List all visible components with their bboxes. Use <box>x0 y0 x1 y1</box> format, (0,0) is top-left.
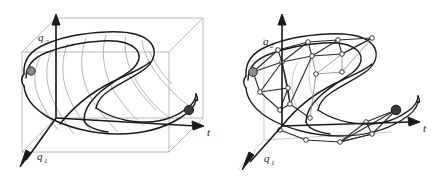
mesh-node <box>370 132 375 137</box>
t-axis-arrowhead <box>192 121 204 130</box>
end-marker <box>391 105 401 115</box>
t-axis-label: t <box>207 126 211 138</box>
t-axis-label: t <box>423 122 427 134</box>
mesh-edge-s4 <box>310 74 316 118</box>
tube-left-cap <box>22 74 24 86</box>
mesh-edge-s1 <box>312 54 342 74</box>
mesh-node <box>286 86 291 91</box>
triangulated-mesh-edges <box>253 38 396 142</box>
mesh-node <box>308 116 313 121</box>
q1-axis-arrowhead <box>20 150 31 167</box>
q2-axis-label-subscript: 2 <box>270 42 274 50</box>
q1-axis-label-subscript: 1 <box>271 159 275 167</box>
mesh-edge-l4 <box>260 92 280 110</box>
figure-canvas: q 2 t q 1 <box>0 0 439 181</box>
mesh-node <box>340 52 345 57</box>
bounding-box-wireframe <box>22 18 203 152</box>
hidden-ring-1 <box>292 62 298 110</box>
box-edge-bl <box>22 118 56 152</box>
mesh-node <box>310 54 315 59</box>
mesh-node <box>258 90 263 95</box>
mesh-node <box>304 138 309 143</box>
smooth-worldtube-panel: q 2 t q 1 <box>0 0 219 181</box>
cross-section-7 <box>142 40 190 106</box>
mesh-edge-l9 <box>290 56 312 104</box>
t-axis-line <box>56 118 196 126</box>
tube-lower-inner <box>306 122 330 134</box>
tube-left-cap <box>244 76 246 88</box>
q1-axis-arrowhead <box>242 152 254 170</box>
q1-axis-label-subscript: 1 <box>44 157 48 165</box>
mesh-edge-t6 <box>342 38 372 54</box>
mesh-node <box>276 48 281 53</box>
mesh-node <box>306 40 311 45</box>
mesh-node <box>288 102 293 107</box>
q2-axis-arrowhead <box>278 14 286 25</box>
q2-axis-label: q <box>38 31 44 43</box>
mesh-node <box>314 72 319 77</box>
q2-axis-arrowhead <box>52 14 60 25</box>
t-axis-arrowhead <box>408 117 420 126</box>
start-marker <box>249 68 258 77</box>
mesh-node <box>336 38 341 43</box>
start-marker <box>27 67 35 75</box>
end-marker <box>184 105 193 114</box>
mesh-node <box>340 70 345 75</box>
mesh-node <box>370 36 375 41</box>
cross-section-9 <box>130 76 156 110</box>
cross-section-5 <box>103 35 144 126</box>
mesh-edge-l8 <box>282 62 290 104</box>
q2-axis-label: q <box>263 35 269 47</box>
q1-axis-label: q <box>37 150 43 162</box>
mesh-node <box>338 140 343 145</box>
box-edge-tr <box>169 18 203 52</box>
q1-axis-label: q <box>264 152 270 164</box>
q2-axis-label-subscript: 2 <box>45 38 49 46</box>
cross-section-2 <box>47 50 74 134</box>
triangulated-worldtube-panel: q 2 t q 1 <box>220 0 439 181</box>
